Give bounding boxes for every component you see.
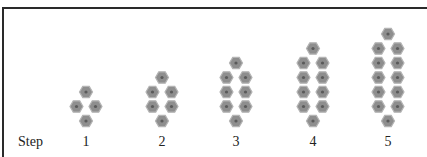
- hexagon-tile-icon: [230, 115, 243, 126]
- hexagon-tile-icon: [156, 72, 169, 83]
- hexagon-tile-icon: [230, 57, 243, 68]
- step-label-3: 3: [233, 134, 240, 150]
- hexagon-tile-icon: [316, 72, 329, 83]
- hexagon-tile-icon: [80, 86, 93, 97]
- hexagon-tile-icon: [316, 101, 329, 112]
- hexagon-tile-icon: [146, 101, 159, 112]
- hexagon-tile-icon: [372, 43, 385, 54]
- hexagon-tile-icon: [372, 101, 385, 112]
- hexagon-tile-icon: [80, 115, 93, 126]
- hexagon-tile-icon: [297, 101, 310, 112]
- hexagon-tile-icon: [391, 57, 404, 68]
- hexagon-tile-icon: [372, 57, 385, 68]
- hexagon-tile-icon: [165, 86, 178, 97]
- hexagon-tile-icon: [239, 72, 252, 83]
- step-row-label: Step: [18, 134, 43, 150]
- hexagon-tile-icon: [297, 86, 310, 97]
- hexagon-tile-icon: [372, 86, 385, 97]
- hexagon-tile-icon: [391, 43, 404, 54]
- hexagon-tile-icon: [146, 86, 159, 97]
- hexagon-tile-icon: [89, 101, 102, 112]
- step-label-2: 2: [159, 134, 166, 150]
- hexagon-tile-icon: [297, 57, 310, 68]
- hexagon-tile-icon: [316, 86, 329, 97]
- hexagon-tile-icon: [220, 101, 233, 112]
- hexagon-tile-icon: [220, 86, 233, 97]
- hexagon-tile-icon: [220, 72, 233, 83]
- hexagon-tile-icon: [372, 72, 385, 83]
- hexagon-tile-icon: [307, 43, 320, 54]
- hexagon-tile-icon: [316, 57, 329, 68]
- hexagon-tile-icon: [156, 115, 169, 126]
- hexagon-tile-icon: [391, 86, 404, 97]
- step-label-5: 5: [385, 134, 392, 150]
- hexagon-tile-icon: [239, 101, 252, 112]
- step-label-4: 4: [310, 134, 317, 150]
- hexagon-tile-icon: [307, 115, 320, 126]
- hexagon-tile-icon: [382, 28, 395, 39]
- hexagon-tile-icon: [391, 101, 404, 112]
- step-label-1: 1: [83, 134, 90, 150]
- hexagon-tile-icon: [165, 101, 178, 112]
- hexagon-tile-icon: [297, 72, 310, 83]
- hexagon-tile-icon: [239, 86, 252, 97]
- hexagon-tile-icon: [391, 72, 404, 83]
- hexagon-tile-icon: [70, 101, 83, 112]
- hexagon-tile-icon: [382, 115, 395, 126]
